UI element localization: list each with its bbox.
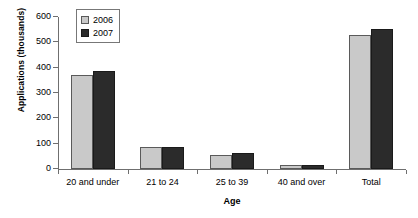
legend-label-2006: 2006 [93,15,113,25]
bar-pair [210,17,254,169]
bar-2006 [210,155,232,169]
y-tick-label: 0 [46,168,51,169]
bar-2007 [162,147,184,169]
y-tick-label: 100 [36,143,51,144]
y-tick-label: 300 [36,92,51,93]
bar-pair [280,17,324,169]
bar-group: 40 and over [267,17,337,169]
bar-2006 [140,147,162,169]
y-tick-label: 500 [36,41,51,42]
x-tick-label: Total [362,177,381,187]
bar-2007 [371,29,393,169]
legend-item-2006: 2006 [81,13,113,26]
legend-swatch-icon-2006 [81,16,89,24]
legend-item-2007: 2007 [81,26,113,39]
bar-2006 [71,75,93,169]
x-tick [128,170,129,174]
bar-pair [349,17,393,169]
bar-2007 [232,153,254,169]
x-tick-label: 21 to 24 [146,177,179,187]
y-tick-label: 600 [36,16,51,17]
bar-pair [140,17,184,169]
legend-label-2007: 2007 [93,28,113,38]
legend-swatch-icon-2007 [81,29,89,37]
y-axis-title: Applications (thousands) [16,0,26,125]
x-tick-label: 25 to 39 [216,177,249,187]
x-tick [336,170,337,174]
x-tick [58,170,59,174]
x-tick [406,170,407,174]
y-tick-label: 200 [36,117,51,118]
bar-group: 25 to 39 [197,17,267,169]
x-tick-label: 40 and over [278,177,326,187]
bar-2007 [302,165,324,169]
legend: 2006 2007 [76,9,120,43]
bar-2006 [280,165,302,169]
bar-group: 21 to 24 [128,17,198,169]
bar-group: Total [336,17,406,169]
x-tick-label: 20 and under [66,177,119,187]
x-tick [267,170,268,174]
bar-2007 [93,71,115,169]
y-tick-label: 400 [36,67,51,68]
x-tick [197,170,198,174]
bar-2006 [349,35,371,169]
bar-chart: Applications (thousands) 010020030040050… [0,0,418,218]
x-axis-title: Age [58,196,406,206]
x-axis-line [58,169,406,170]
